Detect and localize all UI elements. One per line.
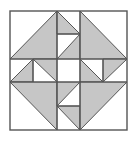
quilt-block-diagram <box>0 0 132 141</box>
